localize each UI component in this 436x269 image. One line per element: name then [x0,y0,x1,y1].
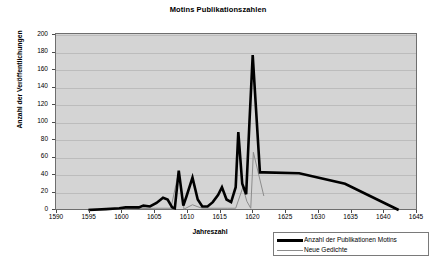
y-tick-mark [52,209,55,210]
x-tick-mark [154,210,155,213]
legend-label: Anzahl der Publikationen Motins [303,236,397,243]
chart-container: Motins Publikationszahlen 02040608010012… [0,0,436,269]
y-tick-label: 40 [22,171,48,178]
y-tick-mark [52,34,55,35]
x-tick-mark [121,210,122,213]
x-tick-label: 1620 [237,214,267,221]
legend-label: Neue Gedichte [303,246,347,253]
x-axis-title: Jahreszahl [150,228,270,235]
y-tick-mark [52,104,55,105]
x-tick-mark [351,210,352,213]
y-axis-title: Anzahl der Veröffentlichungen [16,5,23,155]
x-tick-label: 1625 [270,214,300,221]
y-tick-label: 100 [22,118,48,125]
x-tick-label: 1640 [368,214,398,221]
y-tick-label: 140 [22,83,48,90]
y-tick-label: 180 [22,48,48,55]
x-tick-mark [187,210,188,213]
x-tick-mark [285,210,286,213]
x-tick-mark [416,210,417,213]
legend-item-neue-gedichte: Neue Gedichte [277,244,347,255]
x-tick-label: 1600 [106,214,136,221]
y-tick-label: 20 [22,188,48,195]
y-tick-mark [52,174,55,175]
x-tick-label: 1610 [172,214,202,221]
y-tick-mark [52,69,55,70]
y-tick-label: 60 [22,153,48,160]
chart-title: Motins Publikationszahlen [0,5,436,14]
x-tick-mark [252,210,253,213]
x-tick-mark [56,210,57,213]
y-tick-mark [52,122,55,123]
x-tick-label: 1645 [401,214,431,221]
y-tick-mark [52,192,55,193]
legend-swatch-line-icon [277,235,303,245]
y-tick-label: 160 [22,66,48,73]
chart-legend: Anzahl der Publikationen Motins Neue Ged… [273,232,429,256]
y-tick-label: 0 [22,206,48,213]
x-tick-mark [383,210,384,213]
y-tick-label: 120 [22,101,48,108]
series-layer [56,34,418,211]
series-line [88,55,398,210]
x-tick-label: 1635 [336,214,366,221]
y-tick-mark [52,87,55,88]
x-tick-label: 1615 [205,214,235,221]
y-tick-mark [52,157,55,158]
x-tick-mark [220,210,221,213]
x-tick-label: 1605 [139,214,169,221]
x-tick-mark [318,210,319,213]
plot-area [55,33,417,210]
x-tick-label: 1630 [303,214,333,221]
y-tick-mark [52,52,55,53]
x-tick-mark [89,210,90,213]
y-tick-label: 200 [22,31,48,38]
x-tick-label: 1590 [41,214,71,221]
y-tick-label: 80 [22,136,48,143]
y-tick-mark [52,139,55,140]
legend-swatch-line-icon [277,245,303,255]
x-tick-label: 1595 [74,214,104,221]
